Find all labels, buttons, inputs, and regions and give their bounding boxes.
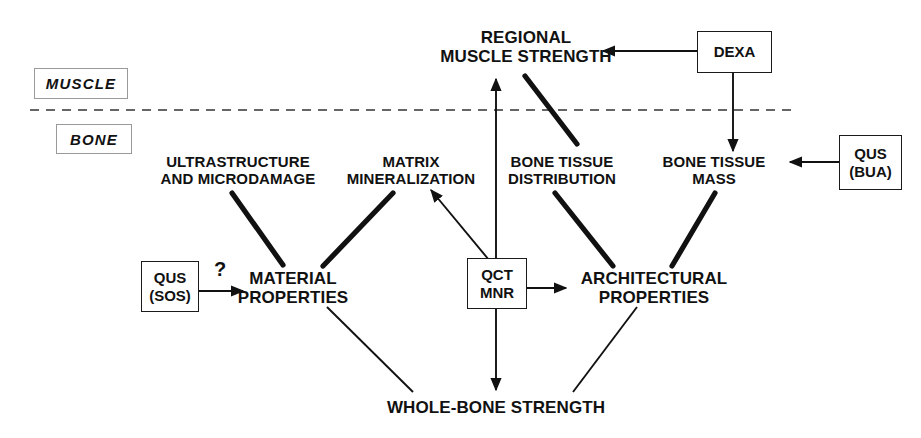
edge-architectural-to-whole-bone	[573, 307, 637, 392]
diagram-connector-layer	[0, 0, 921, 438]
edge-ultrastructure-to-material	[232, 193, 283, 265]
device-box-dexa[interactable]: DEXA	[697, 31, 772, 73]
edge-material-to-whole-bone	[327, 307, 413, 392]
edge-matrix-to-material	[323, 193, 393, 266]
region-tag-bone-label: BONE	[70, 131, 118, 148]
device-box-qct-mnr[interactable]: QCT MNR	[467, 258, 527, 309]
uncertainty-question-mark: ?	[214, 258, 226, 281]
bone-muscle-concept-diagram: MUSCLE BONE REGIONAL MUSCLE STRENGTH ULT…	[0, 0, 921, 438]
device-box-qus-sos[interactable]: QUS (SOS)	[141, 261, 199, 312]
edge-bone-mass-to-architectural	[672, 193, 715, 266]
region-tag-muscle-label: MUSCLE	[46, 75, 117, 92]
region-tag-bone: BONE	[56, 124, 132, 154]
device-box-qus-bua[interactable]: QUS (BUA)	[839, 135, 902, 190]
edge-bone-distribution-to-architectural	[555, 193, 613, 266]
edge-qct-to-matrix	[431, 190, 489, 260]
region-tag-muscle: MUSCLE	[34, 68, 128, 99]
